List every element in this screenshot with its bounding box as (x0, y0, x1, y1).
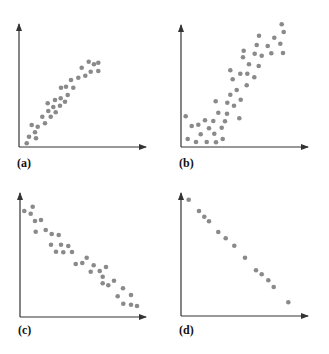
data-point (58, 96, 63, 101)
data-point (245, 71, 250, 76)
data-point (271, 285, 276, 290)
data-point (63, 99, 68, 104)
panel-label-b: (b) (179, 156, 194, 170)
data-point (33, 229, 38, 234)
data-point (207, 126, 212, 131)
data-point (225, 100, 230, 105)
data-point (244, 83, 249, 88)
data-point (241, 55, 246, 60)
data-point (252, 51, 257, 56)
data-point (33, 130, 38, 135)
data-point (247, 62, 252, 67)
panel-d: (d) (179, 193, 308, 337)
data-point (189, 124, 194, 129)
data-point (225, 111, 230, 116)
panel-label-c: (c) (18, 323, 31, 337)
data-point (194, 140, 199, 145)
data-point (279, 22, 284, 27)
panel-a: (a) (17, 24, 146, 170)
data-point (121, 286, 126, 291)
data-point (238, 71, 243, 76)
data-point (228, 68, 233, 73)
dots-b (183, 22, 286, 145)
data-point (80, 261, 85, 266)
data-point (100, 281, 105, 286)
axes-c (20, 193, 146, 317)
data-point (48, 114, 53, 119)
panel-label-d: (d) (179, 323, 194, 337)
data-point (259, 272, 264, 277)
data-point (223, 236, 228, 241)
data-point (51, 105, 56, 110)
data-point (237, 116, 242, 121)
data-point (243, 255, 248, 260)
data-point (69, 78, 74, 83)
data-point (96, 60, 101, 65)
data-point (71, 85, 76, 90)
data-point (83, 73, 88, 78)
panel-b: (b) (179, 22, 308, 170)
data-point (257, 33, 262, 38)
data-point (29, 123, 34, 128)
data-point (79, 65, 84, 70)
data-point (56, 233, 61, 238)
data-point (238, 97, 243, 102)
data-point (232, 103, 237, 108)
data-point (211, 119, 216, 124)
data-point (196, 122, 201, 127)
data-point (219, 125, 224, 130)
data-point (183, 114, 188, 119)
data-point (286, 300, 291, 305)
data-point (203, 118, 208, 123)
data-point (281, 51, 286, 56)
data-point (59, 242, 64, 247)
data-point (53, 98, 58, 103)
data-point (228, 92, 233, 97)
data-point (197, 209, 202, 214)
data-point (28, 211, 33, 216)
data-point (39, 218, 44, 223)
data-point (129, 293, 134, 298)
data-point (65, 93, 70, 98)
data-point (254, 268, 259, 273)
data-point (115, 294, 120, 299)
data-point (73, 262, 78, 267)
data-point (40, 114, 45, 119)
data-point (278, 41, 283, 46)
data-point (22, 209, 27, 214)
data-point (54, 249, 59, 254)
data-point (64, 84, 69, 89)
data-point (254, 43, 259, 48)
data-point (92, 62, 97, 67)
data-point (202, 214, 207, 219)
dots-d (186, 197, 290, 304)
data-point (76, 75, 81, 80)
data-point (59, 85, 64, 90)
data-point (220, 137, 225, 142)
data-point (61, 250, 66, 255)
data-point (104, 265, 109, 270)
data-point (252, 75, 257, 80)
data-point (186, 197, 191, 202)
data-point (58, 103, 63, 108)
data-point (223, 119, 228, 124)
data-point (234, 88, 239, 93)
data-point (30, 204, 35, 209)
data-point (241, 48, 246, 53)
data-point (45, 101, 50, 106)
data-point (84, 255, 89, 260)
data-point (256, 64, 261, 69)
data-point (27, 134, 32, 139)
data-point (88, 69, 93, 74)
data-point (212, 131, 217, 136)
data-point (96, 69, 101, 74)
data-point (269, 51, 274, 56)
data-point (129, 302, 134, 307)
data-point (35, 124, 40, 129)
data-point (198, 132, 203, 137)
data-point (43, 228, 48, 233)
data-point (216, 110, 221, 115)
data-point (100, 274, 105, 279)
data-point (121, 301, 126, 306)
panel-label-a: (a) (17, 156, 31, 170)
